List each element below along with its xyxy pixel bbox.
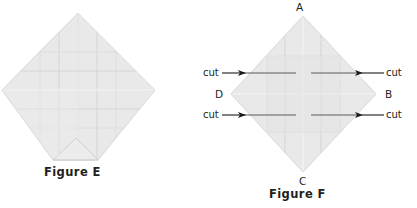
figure-e-caption: Figure E <box>44 167 101 179</box>
figure-f-vertex-b: B <box>385 89 392 100</box>
cut-label-top-left: cut <box>203 68 219 78</box>
figure-f-vertex-c: C <box>299 176 306 187</box>
figures-stage: Figure E Figure F A B C D cut cut cut cu… <box>0 0 417 208</box>
figure-f-vertex-d: D <box>215 89 223 100</box>
cut-label-top-right: cut <box>386 68 402 78</box>
cut-label-bottom-left: cut <box>203 110 219 120</box>
figure-f-vertex-a: A <box>296 2 303 13</box>
figure-f-caption: Figure F <box>269 189 326 201</box>
cut-label-bottom-right: cut <box>386 110 402 120</box>
